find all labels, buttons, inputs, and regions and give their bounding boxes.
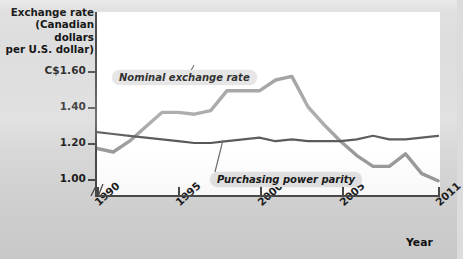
x-tick-2000 xyxy=(260,187,262,196)
y-axis-line xyxy=(95,12,97,196)
series-layer xyxy=(97,12,440,196)
y-tick-label-1-40: 1.40 xyxy=(0,100,86,112)
y-tick-label-1-60: C$1.60 xyxy=(0,64,86,76)
series-line-nominal-exchange-rate xyxy=(97,76,438,180)
y-tick-1-40 xyxy=(88,107,96,109)
y-tick-1-00 xyxy=(88,179,96,181)
leader-line-ppp xyxy=(215,140,223,172)
x-tick-2011 xyxy=(438,187,440,196)
y-tick-1-60 xyxy=(88,71,96,73)
y-axis-title-line2: (Canadian dollars xyxy=(2,18,94,43)
plot-area xyxy=(97,12,440,196)
x-tick-2005 xyxy=(342,187,344,196)
y-axis-title-line1: Exchange rate xyxy=(2,6,94,18)
y-axis-title: Exchange rate (Canadian dollars per U.S.… xyxy=(2,6,94,56)
x-tick-1995 xyxy=(178,187,180,196)
y-axis-title-line3: per U.S. dollar) xyxy=(2,43,94,55)
annotation-ppp: Purchasing power parity xyxy=(210,172,362,187)
y-tick-label-1-20: 1.20 xyxy=(0,136,86,148)
y-tick-label-1-00: 1.00 xyxy=(0,172,86,184)
annotation-nominal: Nominal exchange rate xyxy=(112,70,257,85)
y-tick-1-20 xyxy=(88,143,96,145)
x-axis-title: Year xyxy=(406,236,433,249)
axis-break-mark xyxy=(90,182,104,198)
series-line-purchasing-power-parity xyxy=(97,132,438,143)
x-axis-line xyxy=(95,195,440,197)
